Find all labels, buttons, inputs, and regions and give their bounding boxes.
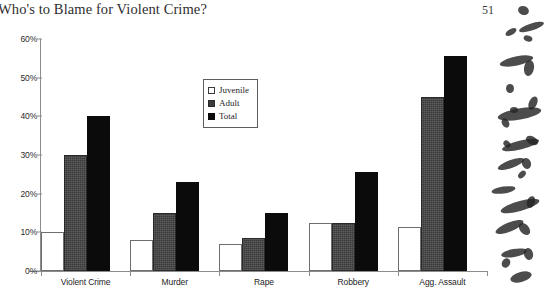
scan-smudge xyxy=(499,53,534,69)
bar-adult xyxy=(332,223,355,271)
category-separator xyxy=(41,271,42,276)
scan-smudge xyxy=(520,157,532,170)
bar-juvenile xyxy=(219,244,242,271)
x-axis-line xyxy=(29,271,487,272)
scan-smudge xyxy=(525,195,537,209)
scan-smudge xyxy=(500,257,512,270)
legend-item-label: Total xyxy=(219,112,237,121)
bar-total xyxy=(444,56,467,271)
category-separator xyxy=(309,271,310,276)
scan-smudge xyxy=(517,221,533,238)
bar-total xyxy=(176,182,199,271)
bar-adult xyxy=(421,97,444,271)
legend-item: Adult xyxy=(208,97,252,110)
black-square-icon xyxy=(208,113,215,120)
page-title: Who's to Blame for Violent Crime? xyxy=(0,1,207,18)
bar-adult xyxy=(64,155,87,271)
white-square-icon xyxy=(208,87,215,94)
category-separator xyxy=(398,271,399,276)
scan-smudge xyxy=(523,34,534,43)
scan-smudge xyxy=(501,136,540,154)
y-axis-tick-label: 0% xyxy=(25,266,37,276)
category-label: Robbery xyxy=(309,277,398,287)
y-axis-tick-label: 30% xyxy=(21,150,37,160)
bar-chart: 0%10%20%30%40%50%60% Violent CrimeMurder… xyxy=(0,28,500,294)
scan-smudge xyxy=(523,247,535,261)
legend-item: Total xyxy=(208,110,252,123)
scan-smudge xyxy=(510,107,518,113)
y-axis-tick-label: 20% xyxy=(21,189,37,199)
scan-smudge xyxy=(526,95,539,111)
scan-smudge xyxy=(517,5,530,17)
bar-total xyxy=(355,172,378,271)
scan-smudge-artifacts xyxy=(498,0,549,294)
scan-smudge xyxy=(517,169,528,180)
bar-adult xyxy=(242,238,265,271)
scan-smudge xyxy=(504,26,517,37)
bar-total xyxy=(87,116,110,271)
y-axis-tick-label: 10% xyxy=(21,227,37,237)
category-separator xyxy=(219,271,220,276)
scan-smudge xyxy=(499,196,540,217)
scan-smudge xyxy=(500,117,511,129)
category-label: Agg. Assault xyxy=(398,277,487,287)
bar-group xyxy=(41,39,130,271)
category-label: Rape xyxy=(219,277,308,287)
bar-group xyxy=(130,39,219,271)
scan-smudge xyxy=(501,247,528,259)
scan-smudge xyxy=(509,269,533,285)
scan-smudge xyxy=(497,105,542,123)
y-axis-tick-label: 40% xyxy=(21,111,37,121)
y-axis-tick-label: 50% xyxy=(21,73,37,83)
chart-legend: JuvenileAdultTotal xyxy=(203,79,258,128)
category-separator xyxy=(487,271,488,276)
page-number: 51 xyxy=(482,3,494,18)
scan-smudge xyxy=(524,134,539,147)
bar-total xyxy=(265,213,288,271)
bar-juvenile xyxy=(41,232,64,271)
bar-group xyxy=(398,39,487,271)
gray-square-icon xyxy=(208,100,215,107)
legend-item-label: Adult xyxy=(219,99,240,108)
bar-juvenile xyxy=(398,227,421,271)
y-axis-tick-label: 60% xyxy=(21,34,37,44)
scan-smudge xyxy=(518,20,545,35)
legend-item-label: Juvenile xyxy=(219,86,249,95)
bar-juvenile xyxy=(309,223,332,271)
category-separator xyxy=(130,271,131,276)
legend-item: Juvenile xyxy=(208,84,252,97)
bar-adult xyxy=(153,213,176,271)
plot-area xyxy=(41,39,487,271)
category-label: Violent Crime xyxy=(41,277,130,287)
scan-smudge xyxy=(523,59,536,76)
category-label: Murder xyxy=(130,277,219,287)
scan-smudge xyxy=(506,84,514,93)
bar-juvenile xyxy=(130,240,153,271)
scan-smudge xyxy=(496,155,525,172)
scan-smudge xyxy=(502,139,512,149)
bar-group xyxy=(219,39,308,271)
bar-group xyxy=(309,39,398,271)
